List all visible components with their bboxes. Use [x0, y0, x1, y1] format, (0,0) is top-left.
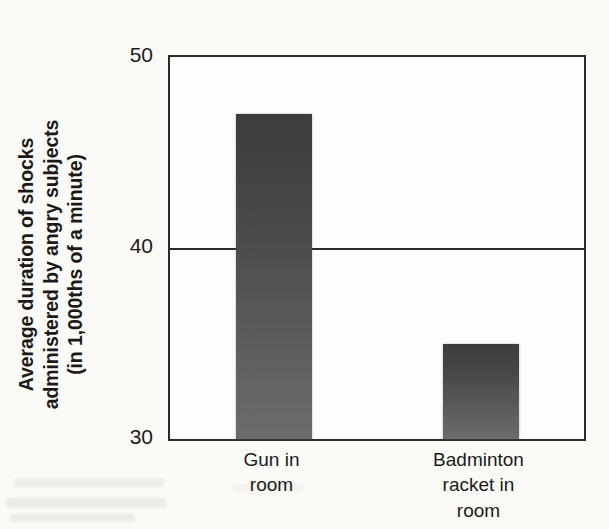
x-tick-badminton-line-2: racket in	[433, 472, 524, 497]
x-tick-gun-in-room-line-1: Gun in	[244, 447, 300, 472]
x-tick-badminton-racket-in-room: Badminton racket in room	[433, 447, 524, 523]
x-tick-gun-in-room-line-2: room	[244, 472, 300, 497]
x-axis-tick-labels: Gun in room Badminton racket in room	[168, 447, 586, 529]
x-tick-badminton-line-1: Badminton	[433, 447, 524, 472]
y-axis-tick-labels: 50 40 30	[0, 0, 163, 529]
x-tick-badminton-line-3: room	[433, 498, 524, 523]
bar-gun-in-room	[236, 114, 312, 439]
y-tick-40: 40	[130, 234, 153, 258]
x-tick-gun-in-room: Gun in room	[244, 447, 300, 498]
y-tick-30: 30	[130, 425, 153, 449]
bar-chart-figure: Average duration of shocks administered …	[0, 0, 609, 529]
plot-area	[168, 55, 586, 441]
gridline-40	[170, 248, 584, 250]
y-tick-50: 50	[130, 43, 153, 67]
bar-badminton-racket-in-room	[443, 344, 519, 440]
